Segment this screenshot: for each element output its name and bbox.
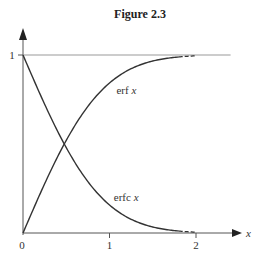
figure: Figure 2.3 x 0121 erf xerfc x bbox=[0, 0, 260, 261]
function-name: erf bbox=[116, 84, 131, 96]
x-tick-label: 2 bbox=[193, 239, 199, 251]
curve-erfc-dashed bbox=[179, 231, 196, 232]
curve-erf bbox=[23, 57, 179, 233]
curve-labels: erf xerfc x bbox=[114, 84, 139, 203]
y-tick-label: 1 bbox=[9, 49, 15, 61]
curve-label-erfc: erfc x bbox=[114, 191, 139, 203]
curve-erfc bbox=[23, 55, 179, 231]
curve-label-erf: erf x bbox=[116, 84, 136, 96]
y-axis-arrow bbox=[19, 28, 27, 40]
axes: x bbox=[19, 28, 251, 239]
x-tick-label: 1 bbox=[107, 239, 113, 251]
function-name: erfc bbox=[114, 191, 134, 203]
curves bbox=[23, 55, 196, 233]
x-tick-label: 0 bbox=[19, 239, 25, 251]
curve-erf-dashed bbox=[179, 56, 196, 57]
x-axis-label: x bbox=[245, 227, 251, 239]
x-axis-arrow bbox=[232, 229, 242, 237]
variable-name: x bbox=[133, 191, 139, 203]
chart-title: Figure 2.3 bbox=[114, 7, 166, 21]
ticks: 0121 bbox=[9, 49, 199, 251]
variable-name: x bbox=[130, 84, 136, 96]
